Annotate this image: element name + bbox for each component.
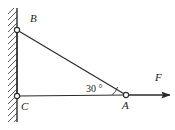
node-b	[14, 27, 19, 32]
wall-group	[8, 5, 17, 130]
label-point-b: B	[30, 13, 37, 24]
label-force-f: F	[155, 72, 162, 83]
label-angle-30-degrees: 30 °	[86, 84, 103, 94]
label-point-a: A	[122, 100, 129, 111]
label-point-c: C	[21, 101, 28, 112]
members-group	[17, 30, 126, 96]
wall-hatching	[8, 5, 17, 130]
node-c	[14, 93, 19, 98]
figure-canvas: B C A F 30 °	[0, 0, 175, 130]
member-ba	[17, 30, 126, 95]
node-a	[123, 92, 128, 97]
member-ca	[17, 95, 126, 96]
